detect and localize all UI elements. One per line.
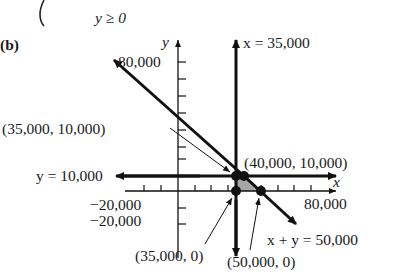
x-ticks	[144, 185, 311, 191]
point-40000-10000-label: (40,000, 10,000)	[244, 154, 347, 172]
brace	[40, 0, 44, 26]
line-x-plus-y-label: x + y = 50,000	[267, 231, 358, 248]
neg-y-label: −20,000	[90, 212, 142, 229]
x-axis-label: x	[332, 173, 340, 190]
x-tick-80000: 80,000	[304, 195, 347, 212]
y-axis-label: y	[160, 33, 169, 50]
point-35000-0	[231, 186, 241, 196]
leader-50000-0	[250, 198, 259, 250]
y-ticks	[178, 62, 186, 224]
feasible-region-diagram: y ≥ 0 (b)	[0, 0, 396, 279]
point-35000-0-label: (35,000, 0)	[135, 247, 203, 265]
line-x-35000-label: x = 35,000	[243, 34, 310, 51]
constraint-y-ge-0: y ≥ 0	[93, 9, 126, 26]
part-label: (b)	[0, 36, 19, 54]
leader-35000-10000	[170, 128, 230, 172]
point-50000-0	[256, 186, 266, 196]
line-y-10000-label: y = 10,000	[36, 167, 103, 184]
point-35000-10000-label: (35,000, 10,000)	[2, 120, 105, 138]
point-50000-0-label: (50,000, 0)	[227, 253, 295, 271]
line-x-plus-y-50000-down	[244, 176, 296, 224]
leader-35000-0	[205, 198, 232, 244]
point-40000-10000	[239, 171, 249, 181]
neg-x-label: −20,000	[90, 196, 142, 213]
y-tick-80000: 80,000	[118, 53, 161, 70]
